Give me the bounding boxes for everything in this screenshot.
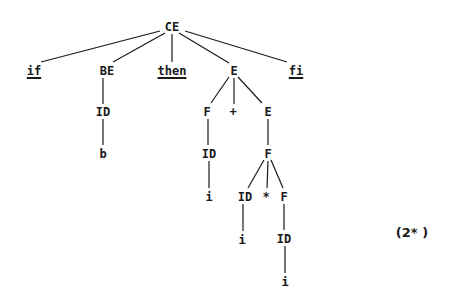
node-e: E [230,65,237,77]
node-id: ID [202,148,216,160]
node-f: F [280,191,287,203]
node-f: F [203,106,210,118]
tree-edge [248,160,264,188]
tree-edge [185,31,287,62]
node-times: * [262,191,269,203]
node-keyword-if: if [27,65,41,77]
node-id: ID [238,191,252,203]
tree-edge [238,77,262,103]
tree-edge [267,161,268,188]
parse-tree-diagram: CE if BE then E fi ID b F + E ID F i ID … [0,0,457,300]
tree-edge [113,33,165,62]
tree-edge [271,160,283,188]
node-f: F [264,148,271,160]
node-keyword-then: then [158,65,187,77]
tree-edges [0,0,457,300]
node-leaf-i: i [238,234,245,246]
tree-edge [211,77,229,103]
node-leaf-b: b [99,148,106,160]
node-plus: + [229,106,236,118]
node-be: BE [100,65,114,77]
node-e: E [264,106,271,118]
node-id: ID [96,106,110,118]
tree-edge [179,33,229,63]
node-keyword-fi: fi [289,65,303,77]
equation-label: (2* ) [396,225,428,240]
node-id: ID [277,233,291,245]
node-leaf-i: i [205,191,212,203]
node-ce-root: CE [165,21,179,33]
node-leaf-i: i [281,276,288,288]
tree-edge [41,31,160,62]
